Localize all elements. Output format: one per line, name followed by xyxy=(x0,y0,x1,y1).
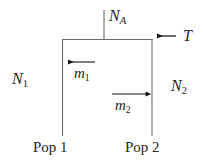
migration-rate-1-label: m1 xyxy=(74,66,90,83)
population1-size-symbol: N xyxy=(12,70,23,87)
divergence-time-label: T xyxy=(183,28,192,44)
migration-rate-2-subscript: 2 xyxy=(126,104,131,115)
population2-size-label: N2 xyxy=(171,78,187,97)
ancestral-population-symbol: N xyxy=(109,7,120,24)
population2-size-subscript: 2 xyxy=(182,85,187,96)
migration-rate-2-symbol: m xyxy=(115,97,126,113)
population1-name-label: Pop 1 xyxy=(33,140,68,155)
population1-size-label: N1 xyxy=(12,71,28,90)
population2-name-label: Pop 2 xyxy=(125,140,160,155)
divergence-time-symbol: T xyxy=(183,27,192,44)
migration-diagram: NA T N1 N2 m1 m2 Pop 1 Pop 2 xyxy=(0,0,203,167)
population2-size-symbol: N xyxy=(171,77,182,94)
ancestral-population-subscript: A xyxy=(120,15,126,26)
population1-size-subscript: 1 xyxy=(23,78,28,89)
ancestral-population-label: NA xyxy=(109,8,126,27)
migration-rate-1-symbol: m xyxy=(74,65,85,81)
migration-rate-1-subscript: 1 xyxy=(85,72,90,83)
migration-rate-2-label: m2 xyxy=(115,98,131,115)
